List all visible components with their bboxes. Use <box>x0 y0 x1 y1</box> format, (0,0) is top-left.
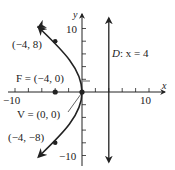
point-top-label: (−4, 8) <box>12 38 42 51</box>
vertex-label: V = (0, 0) <box>17 108 61 121</box>
focus-marker <box>53 89 58 94</box>
directrix-line: D: x = 4 <box>109 18 149 162</box>
y-tick-label-min: −10 <box>59 150 77 162</box>
point-bottom-marker <box>53 141 58 146</box>
parabola-graph: x −10 10 y 10 −10 D: x = 4 <box>0 0 175 170</box>
directrix-label-eq: : x = 4 <box>120 47 149 59</box>
directrix-label: D: x = 4 <box>111 47 149 59</box>
focus-label: F = (−4, 0) <box>16 72 64 85</box>
vertex-marker <box>79 89 84 94</box>
y-axis-label: y <box>72 9 78 20</box>
parabola-curve <box>39 22 83 156</box>
x-tick-label-max: 10 <box>140 94 152 106</box>
x-axis-label: x <box>161 80 167 91</box>
directrix-label-d: D <box>111 47 120 59</box>
point-bottom-label: (−4, −8) <box>8 131 45 144</box>
point-top-marker <box>53 39 58 44</box>
x-tick-label-min: −10 <box>3 94 21 106</box>
